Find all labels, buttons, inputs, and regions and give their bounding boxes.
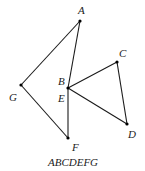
vertex-label-f: F	[71, 141, 79, 153]
vertex-label-c: C	[119, 47, 127, 59]
edge-de	[68, 88, 127, 124]
vertex-dot-b	[66, 86, 69, 89]
polygon-edges	[21, 21, 127, 138]
vertex-dot-f	[66, 136, 69, 139]
figure-caption: ABCDEFG	[47, 156, 98, 168]
edge-ab	[68, 21, 80, 88]
edge-cd	[117, 62, 127, 124]
vertex-label-b: B	[58, 75, 65, 87]
vertex-labels: ABCDEFG	[9, 4, 136, 153]
edge-bc	[68, 62, 117, 88]
vertex-dot-a	[78, 19, 81, 22]
vertex-label-d: D	[127, 128, 136, 140]
geometry-diagram: ABCDEFG ABCDEFG	[0, 0, 145, 171]
vertex-dot-d	[125, 122, 128, 125]
edge-ga	[21, 21, 80, 85]
vertex-label-g: G	[9, 91, 17, 103]
vertex-label-e: E	[57, 92, 65, 104]
vertex-label-a: A	[77, 4, 85, 16]
polygon-vertices	[19, 19, 128, 139]
vertex-dot-c	[115, 60, 118, 63]
vertex-dot-g	[19, 83, 22, 86]
